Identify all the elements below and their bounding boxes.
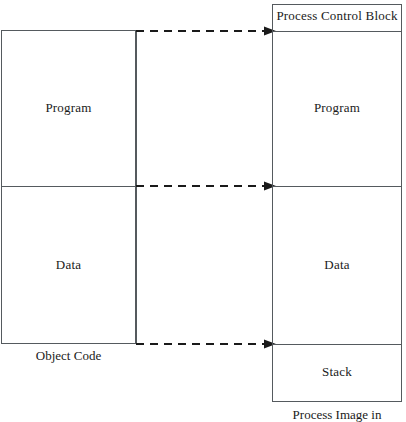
process-control-block-divider [272, 31, 402, 32]
diagram-canvas: Program Data Object Code Process Control… [0, 0, 406, 422]
process-image-box [272, 4, 402, 402]
process-image-stack-divider [272, 344, 402, 345]
process-image-caption: Process Image in [272, 408, 402, 422]
object-code-caption: Object Code [1, 349, 136, 363]
object-code-program-label: Program [1, 101, 136, 115]
object-code-data-label: Data [1, 258, 136, 272]
data-end-mapping-arrow [136, 338, 276, 350]
object-code-divider [1, 186, 136, 187]
process-image-program-label: Program [272, 101, 402, 115]
process-image-data-divider [272, 186, 402, 187]
program-start-mapping-arrow [136, 25, 276, 37]
process-image-data-label: Data [272, 258, 402, 272]
object-code-box [1, 30, 136, 344]
process-control-block-label: Process Control Block [272, 9, 402, 23]
data-start-mapping-arrow [136, 180, 276, 192]
process-image-stack-label: Stack [272, 365, 402, 379]
